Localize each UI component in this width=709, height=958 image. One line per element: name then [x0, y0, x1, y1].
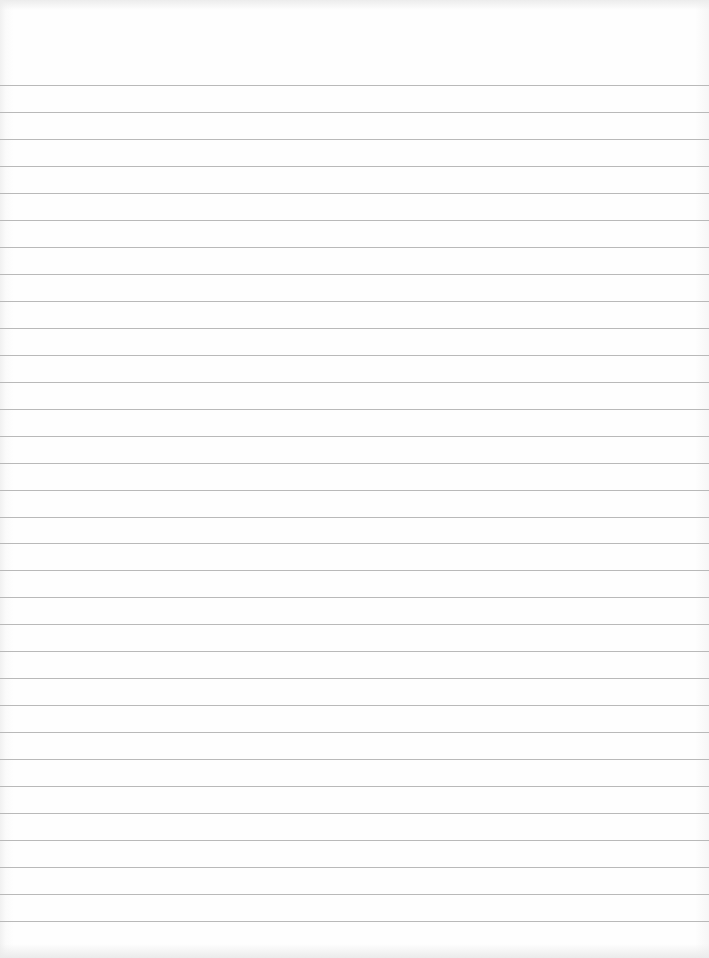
- ruled-line: [0, 301, 709, 302]
- ruled-line: [0, 328, 709, 329]
- ruled-line: [0, 651, 709, 652]
- ruled-line: [0, 409, 709, 410]
- ruled-line: [0, 840, 709, 841]
- ruled-line: [0, 112, 709, 113]
- ruled-line: [0, 85, 709, 86]
- ruled-line: [0, 543, 709, 544]
- ruled-line: [0, 786, 709, 787]
- ruled-line: [0, 166, 709, 167]
- ruled-line: [0, 705, 709, 706]
- ruled-line: [0, 382, 709, 383]
- scan-bottom-edge: [0, 944, 709, 958]
- ruled-line: [0, 463, 709, 464]
- ruled-line: [0, 220, 709, 221]
- ruled-line: [0, 570, 709, 571]
- ruled-line: [0, 759, 709, 760]
- ruled-line: [0, 597, 709, 598]
- ruled-line: [0, 490, 709, 491]
- ruled-line: [0, 678, 709, 679]
- ruled-line: [0, 867, 709, 868]
- ruled-line: [0, 436, 709, 437]
- ruled-line: [0, 732, 709, 733]
- ruled-line: [0, 139, 709, 140]
- ruled-line: [0, 193, 709, 194]
- ruled-line: [0, 921, 709, 922]
- ruled-line: [0, 517, 709, 518]
- scan-top-edge: [0, 0, 709, 10]
- notebook-page: [0, 0, 709, 958]
- ruled-line: [0, 624, 709, 625]
- ruled-line: [0, 813, 709, 814]
- ruled-line: [0, 247, 709, 248]
- ruled-line: [0, 274, 709, 275]
- ruled-line: [0, 894, 709, 895]
- ruled-line: [0, 355, 709, 356]
